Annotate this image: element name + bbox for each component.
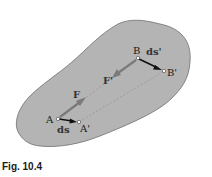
figure-canvas: A A' B B' F F' ds ds' Fig. 10.4 bbox=[0, 0, 212, 177]
label-a-prime: A' bbox=[79, 123, 90, 134]
point-a-marker bbox=[56, 117, 59, 120]
label-f-prime: F' bbox=[103, 75, 113, 86]
label-b-prime: B' bbox=[167, 67, 177, 78]
rigid-body-diagram: A A' B B' F F' ds ds' bbox=[0, 0, 212, 177]
figure-caption: Fig. 10.4 bbox=[2, 161, 42, 172]
point-b-prime-marker bbox=[162, 69, 165, 72]
label-a: A bbox=[45, 114, 54, 125]
point-b-marker bbox=[136, 56, 139, 59]
label-f: F bbox=[73, 89, 80, 100]
label-ds: ds bbox=[57, 124, 70, 135]
label-ds-prime: ds' bbox=[146, 46, 162, 57]
label-b: B bbox=[133, 45, 140, 56]
